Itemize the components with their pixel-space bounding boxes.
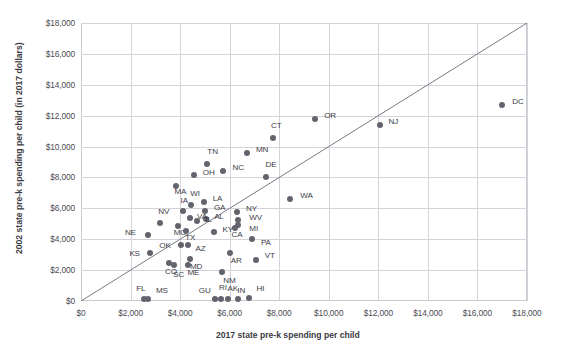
data-point-ms: [145, 296, 151, 302]
data-point-label-ks: KS: [129, 249, 140, 258]
data-point-label-sc: SC: [173, 270, 184, 279]
data-point-label-ok: OK: [159, 241, 170, 250]
data-point-ne: [145, 232, 151, 238]
data-point-label-ny: NY: [246, 204, 257, 213]
y-tick-label: $18,000: [27, 18, 75, 28]
data-point-label-wa: WA: [300, 191, 312, 200]
data-point-label-nv: NV: [158, 207, 169, 216]
data-point-label-me: ME: [188, 268, 200, 277]
data-point-nm: [219, 269, 225, 275]
data-point-la: [201, 199, 207, 205]
data-point-label-ky: KY: [223, 225, 234, 234]
data-point-label-in: IN: [237, 286, 245, 295]
y-tick-label: $8,000: [27, 172, 75, 182]
data-point-label-ca: CA: [232, 230, 243, 239]
scatter-chart: DCNJORCTMNTNNCDEOHMAWALAWIGAIAALVAILNYWV…: [0, 0, 567, 360]
data-point-label-ia: IA: [181, 196, 188, 205]
data-point-label-or: OR: [324, 111, 336, 120]
data-point-label-az: AZ: [196, 244, 206, 253]
data-point-label-ms: MS: [156, 286, 168, 295]
data-point-tn: [204, 161, 210, 167]
y-tick-label: $10,000: [27, 142, 75, 152]
x-axis-title: 2017 state pre-k spending per child: [216, 330, 360, 340]
data-point-label-il: IL: [205, 215, 211, 224]
data-point-label-oh: OH: [203, 168, 215, 177]
y-tick-label: $0: [27, 296, 75, 306]
data-point-label-nc: NC: [232, 163, 243, 172]
data-point-or: [312, 116, 318, 122]
data-point-label-ri: RI: [219, 283, 227, 292]
data-point-label-wv: WV: [249, 213, 262, 222]
data-point-label-mi: MI: [249, 224, 258, 233]
data-point-label-ga: GA: [214, 203, 225, 212]
data-point-gu: [212, 296, 218, 302]
data-point-vt: [253, 257, 259, 263]
data-point-oh: [191, 172, 197, 178]
data-point-ky: [211, 229, 217, 235]
data-point-az: [185, 242, 191, 248]
y-tick-label: $6,000: [27, 203, 75, 213]
data-point-label-dc: DC: [512, 97, 523, 106]
data-point-mn: [244, 150, 250, 156]
data-point-label-pa: PA: [261, 238, 271, 247]
y-tick-label: $14,000: [27, 80, 75, 90]
data-point-nj: [377, 122, 383, 128]
data-point-label-tn: TN: [207, 147, 218, 156]
data-point-ok: [178, 242, 184, 248]
data-point-label-ne: NE: [125, 228, 136, 237]
data-point-label-mn: MN: [256, 145, 268, 154]
y-tick-label: $4,000: [27, 234, 75, 244]
data-point-label-ar: AR: [231, 256, 242, 265]
data-point-label-de: DE: [266, 160, 277, 169]
data-point-label-fl: FL: [136, 284, 145, 293]
data-point-label-nj: NJ: [389, 117, 399, 126]
data-point-label-la: LA: [213, 194, 223, 203]
parity-line-svg: [0, 0, 567, 360]
y-tick-label: $12,000: [27, 111, 75, 121]
y-axis-title: 2002 state pre-k spending per child (in …: [14, 42, 24, 254]
data-point-label-gu: GU: [199, 286, 211, 295]
y-tick-label: $16,000: [27, 49, 75, 59]
data-point-label-al: AL: [214, 212, 224, 221]
data-point-label-vt: VT: [265, 251, 275, 260]
data-point-ri: [218, 296, 224, 302]
data-point-label-ct: CT: [271, 121, 282, 130]
data-point-label-tx: TX: [185, 233, 195, 242]
data-point-label-wi: WI: [190, 189, 200, 198]
x-tick-label: $18,000: [497, 308, 557, 318]
y-tick-label: $2,000: [27, 265, 75, 275]
data-point-label-hi: HI: [256, 284, 264, 293]
data-point-label-ma: MA: [174, 187, 186, 196]
